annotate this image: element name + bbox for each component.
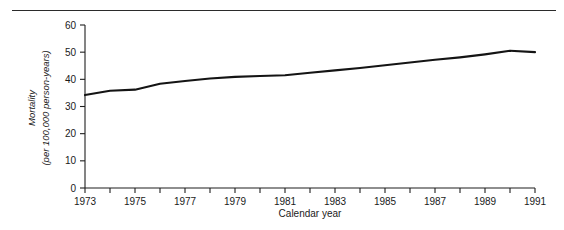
y-tick-label: 0 bbox=[70, 183, 76, 194]
figure-container: 0102030405060 19731975197719791981198319… bbox=[0, 0, 564, 230]
x-tick-label: 1977 bbox=[174, 196, 197, 207]
x-tick-label: 1983 bbox=[324, 196, 347, 207]
x-tick-label: 1975 bbox=[124, 196, 147, 207]
y-tick-label: 40 bbox=[65, 74, 77, 85]
y-tick-label: 50 bbox=[65, 47, 77, 58]
x-axis-ticks bbox=[85, 188, 535, 193]
x-axis-title: Calendar year bbox=[279, 208, 342, 219]
y-axis-title-line1: Mortality bbox=[26, 89, 37, 126]
x-tick-label: 1973 bbox=[74, 196, 97, 207]
y-axis-ticks bbox=[80, 25, 85, 188]
x-tick-label: 1989 bbox=[474, 196, 497, 207]
x-axis-tick-labels: 1973197519771979198119831985198719891991 bbox=[74, 196, 547, 207]
x-tick-label: 1985 bbox=[374, 196, 397, 207]
mortality-series-line bbox=[85, 51, 535, 95]
y-axis-title-line2: (per 100,000 person-years) bbox=[40, 50, 51, 165]
y-tick-label: 30 bbox=[65, 101, 77, 112]
x-tick-label: 1991 bbox=[524, 196, 547, 207]
y-tick-label: 20 bbox=[65, 128, 77, 139]
y-tick-label: 10 bbox=[65, 155, 77, 166]
y-tick-label: 60 bbox=[65, 20, 77, 31]
mortality-line-chart: 0102030405060 19731975197719791981198319… bbox=[0, 0, 564, 230]
x-tick-label: 1987 bbox=[424, 196, 447, 207]
x-tick-label: 1979 bbox=[224, 196, 247, 207]
y-axis-tick-labels: 0102030405060 bbox=[65, 20, 77, 194]
x-tick-label: 1981 bbox=[274, 196, 297, 207]
